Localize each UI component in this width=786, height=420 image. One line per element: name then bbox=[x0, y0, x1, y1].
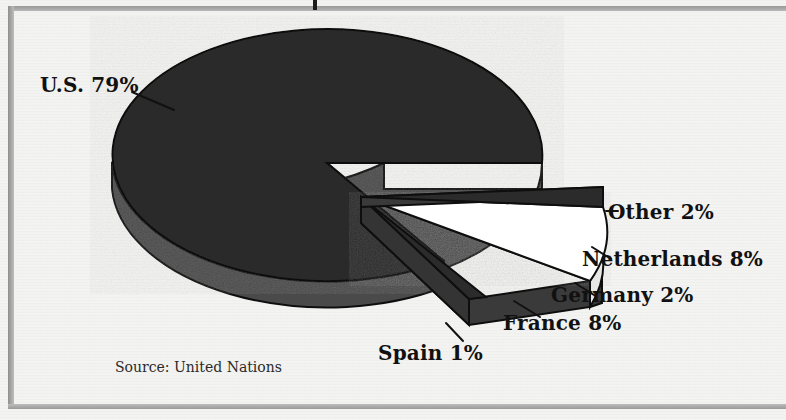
label-other: Other 2% bbox=[608, 200, 714, 224]
chart-plate: U.S. 79% Other 2% Netherlands 8% Germany… bbox=[14, 11, 780, 404]
label-netherlands: Netherlands 8% bbox=[582, 247, 763, 271]
source-note: Source: United Nations bbox=[115, 359, 282, 375]
label-spain: Spain 1% bbox=[378, 341, 483, 365]
chart-figure: U.S. 79% Other 2% Netherlands 8% Germany… bbox=[0, 0, 786, 420]
top-tick-mark bbox=[313, 0, 317, 10]
label-us: U.S. 79% bbox=[40, 73, 139, 97]
label-france: France 8% bbox=[503, 311, 621, 335]
figure-border-bottom bbox=[8, 404, 786, 409]
label-germany: Germany 2% bbox=[551, 283, 694, 307]
leader-spain bbox=[446, 323, 463, 341]
pie-slice-us bbox=[112, 29, 542, 307]
